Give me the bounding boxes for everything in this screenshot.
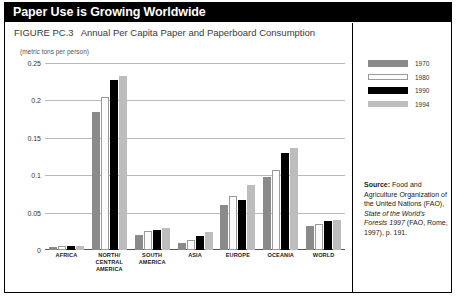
x-axis-label: NORTH/CENTRAL AMERICA xyxy=(88,252,131,273)
x-axis-label: ASIA xyxy=(174,252,217,273)
bar-group xyxy=(45,63,88,250)
legend-item: 1970 xyxy=(368,59,448,68)
bar-group xyxy=(131,63,174,250)
bar xyxy=(238,200,246,250)
y-axis-tick-label: 0 xyxy=(37,247,41,254)
bar-group xyxy=(216,63,259,250)
source-label: Source: xyxy=(364,181,390,188)
bar xyxy=(196,236,204,250)
x-axis-label: AFRICA xyxy=(45,252,88,273)
legend-label: 1990 xyxy=(415,87,429,94)
x-axis-label: EUROPE xyxy=(216,252,259,273)
bar xyxy=(101,97,109,250)
bar xyxy=(119,76,127,250)
bar xyxy=(272,170,280,250)
bar xyxy=(281,153,289,250)
bar-group xyxy=(88,63,131,250)
legend-item: 1990 xyxy=(368,86,448,95)
y-axis-tick-label: 0.05 xyxy=(27,209,41,216)
bar xyxy=(333,220,341,250)
bar xyxy=(205,232,213,250)
legend-swatch xyxy=(368,101,408,108)
legend-label: 1994 xyxy=(415,101,429,108)
section-divider xyxy=(352,23,353,292)
x-axis-labels: AFRICANORTH/CENTRAL AMERICASOUTHAMERICAA… xyxy=(45,252,345,273)
bar xyxy=(110,80,118,250)
figure-page: Paper Use is Growing Worldwide FIGURE PC… xyxy=(0,0,456,297)
x-axis-label: WORLD xyxy=(302,252,345,273)
y-axis-tick-label: 0.15 xyxy=(27,134,41,141)
y-axis-tick-label: 0.2 xyxy=(31,97,41,104)
bar-groups xyxy=(45,63,345,250)
bar xyxy=(229,196,237,250)
chart-area: 00.050.10.150.20.25 AFRICANORTH/CENTRAL … xyxy=(0,0,352,293)
bar xyxy=(67,246,75,250)
legend-label: 1980 xyxy=(415,74,429,81)
legend-swatch xyxy=(368,87,408,94)
y-axis-tick-label: 0.1 xyxy=(31,172,41,179)
bar xyxy=(247,185,255,250)
bar xyxy=(324,221,332,250)
bar xyxy=(162,228,170,250)
chart-legend: 1970198019901994 xyxy=(368,59,448,113)
bar xyxy=(92,112,100,250)
source-note: Source: Food and Agriculture Organizatio… xyxy=(364,180,448,237)
bar xyxy=(178,243,186,250)
y-axis: 00.050.10.150.20.25 xyxy=(0,63,45,250)
bar xyxy=(135,235,143,250)
bar xyxy=(290,148,298,250)
bar xyxy=(49,247,57,250)
legend-label: 1970 xyxy=(415,60,429,67)
bar-group xyxy=(259,63,302,250)
bar xyxy=(306,226,314,250)
y-axis-tick-label: 0.25 xyxy=(27,60,41,67)
bar xyxy=(58,246,66,250)
legend-swatch xyxy=(368,60,408,67)
bar xyxy=(144,231,152,250)
bar xyxy=(153,230,161,250)
bar xyxy=(263,177,271,250)
x-axis-label: SOUTHAMERICA xyxy=(131,252,174,273)
legend-item: 1980 xyxy=(368,73,448,82)
bar xyxy=(220,205,228,250)
bar xyxy=(315,224,323,250)
bar xyxy=(76,246,84,250)
bar xyxy=(187,240,195,250)
x-axis-label: OCEANIA xyxy=(259,252,302,273)
legend-item: 1994 xyxy=(368,100,448,109)
bar-group xyxy=(302,63,345,250)
bar-group xyxy=(174,63,217,250)
legend-swatch xyxy=(368,74,408,81)
